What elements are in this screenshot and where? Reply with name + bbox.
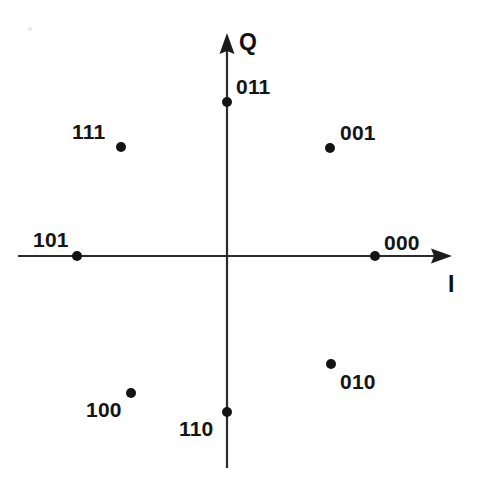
constellation-point-label-110: 110 (179, 418, 213, 439)
constellation-point-label-111: 111 (72, 121, 105, 142)
i-axis-arrowhead (431, 249, 452, 264)
constellation-point-010 (326, 359, 336, 369)
constellation-point-011 (222, 97, 232, 107)
constellation-point-label-011: 011 (236, 76, 270, 97)
constellation-point-110 (222, 407, 232, 417)
constellation-point-label-101: 101 (33, 229, 69, 250)
constellation-point-100 (126, 388, 136, 398)
constellation-point-111 (116, 142, 126, 152)
constellation-point-label-010: 010 (340, 371, 376, 392)
q-axis-label: Q (239, 31, 257, 54)
constellation-diagram-figure: Q I 000001011111101100110010 (0, 0, 479, 478)
i-axis-label: I (448, 273, 454, 296)
constellation-point-001 (325, 143, 335, 153)
constellation-point-101 (72, 251, 82, 261)
constellation-point-label-100: 100 (86, 399, 122, 420)
q-axis-arrowhead (220, 33, 235, 54)
constellation-point-label-000: 000 (384, 232, 420, 253)
constellation-point-000 (370, 251, 380, 261)
constellation-point-label-001: 001 (340, 122, 376, 143)
